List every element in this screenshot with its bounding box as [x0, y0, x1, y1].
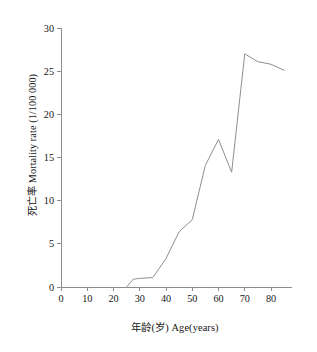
y-tick-label: 5	[49, 238, 54, 249]
y-tick-label: 0	[49, 282, 54, 293]
chart-plot-area: 051015202530 01020304050607080	[0, 0, 317, 352]
x-tick-label: 70	[240, 293, 250, 304]
y-axis-title: 死亡率 Mortality rate (1/100 000)	[24, 0, 42, 290]
x-axis-title: 年龄(岁) Age(years)	[55, 319, 295, 334]
y-tick-label: 15	[44, 152, 54, 163]
mortality-rate-chart: 051015202530 01020304050607080 死亡率 Morta…	[0, 0, 317, 352]
x-tick-label: 60	[213, 293, 223, 304]
y-axis-ticks: 051015202530	[44, 23, 61, 293]
mortality-rate-series-line	[127, 54, 285, 287]
y-tick-label: 30	[44, 23, 54, 34]
x-tick-label: 80	[266, 293, 276, 304]
x-tick-label: 50	[187, 293, 197, 304]
y-tick-label: 20	[44, 109, 54, 120]
x-tick-label: 10	[82, 293, 92, 304]
y-tick-label: 25	[44, 66, 54, 77]
x-tick-label: 20	[108, 293, 118, 304]
x-tick-label: 0	[58, 293, 63, 304]
x-tick-label: 30	[135, 293, 145, 304]
x-tick-label: 40	[161, 293, 171, 304]
y-tick-label: 10	[44, 195, 54, 206]
x-axis-ticks: 01020304050607080	[58, 287, 276, 304]
